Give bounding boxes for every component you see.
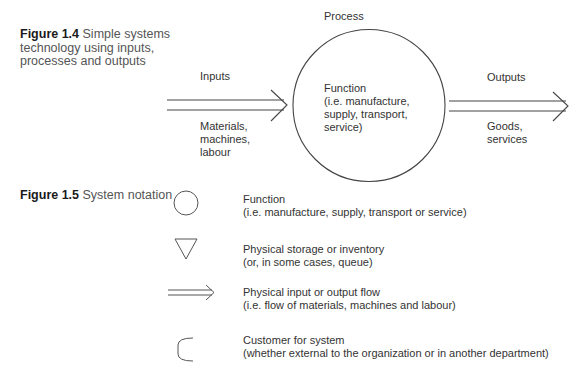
function-line: (i.e. manufacture, <box>324 95 410 108</box>
legend-item-function: Function (i.e. manufacture, supply, tran… <box>243 193 467 219</box>
legend-detail: (i.e. flow of materials, machines and la… <box>243 299 456 312</box>
function-line: supply, transport, <box>324 108 410 121</box>
legend-title: Customer for system <box>243 334 549 347</box>
legend-title: Function <box>243 193 467 206</box>
double-arrow-icon <box>168 285 214 300</box>
figure-1-5-number: Figure 1.5 <box>20 188 79 202</box>
triangle-icon <box>175 239 197 259</box>
figure-1-4-number: Figure 1.4 <box>20 27 79 41</box>
caption-line: processes and outputs <box>20 55 170 69</box>
legend-title: Physical input or output flow <box>243 286 456 299</box>
output-arrow-icon <box>449 92 568 121</box>
outputs-detail-line: Goods, <box>487 120 527 133</box>
caption-line: Simple systems <box>83 27 171 41</box>
inputs-detail: Materials, machines, labour <box>200 120 250 159</box>
function-line: Function <box>324 82 410 95</box>
process-label: Process <box>324 10 364 23</box>
caption-line: technology using inputs, <box>20 42 170 56</box>
inputs-detail-line: machines, <box>200 133 250 146</box>
outputs-label: Outputs <box>487 71 526 84</box>
function-line: service) <box>324 121 410 134</box>
process-function-text: Function (i.e. manufacture, supply, tran… <box>324 82 410 134</box>
legend-item-storage: Physical storage or inventory (or, in so… <box>243 243 384 269</box>
outputs-detail-line: services <box>487 133 527 146</box>
customer-bracket-icon <box>178 338 193 361</box>
figure-1-5-caption: Figure 1.5 System notation <box>20 189 172 203</box>
outputs-detail: Goods, services <box>487 120 527 146</box>
inputs-detail-line: Materials, <box>200 120 250 133</box>
legend-detail: (whether external to the organization or… <box>243 347 549 360</box>
circle-icon <box>174 191 198 215</box>
figure-1-5-caption-text: System notation <box>83 188 173 202</box>
inputs-label: Inputs <box>200 70 230 83</box>
legend-title: Physical storage or inventory <box>243 243 384 256</box>
input-arrow-icon <box>167 90 287 121</box>
legend-detail: (or, in some cases, queue) <box>243 256 384 269</box>
legend-item-customer: Customer for system (whether external to… <box>243 334 549 360</box>
legend-detail: (i.e. manufacture, supply, transport or … <box>243 206 467 219</box>
legend-item-flow: Physical input or output flow (i.e. flow… <box>243 286 456 312</box>
figure-1-4-caption: Figure 1.4 Simple systems technology usi… <box>20 28 170 69</box>
inputs-detail-line: labour <box>200 146 250 159</box>
